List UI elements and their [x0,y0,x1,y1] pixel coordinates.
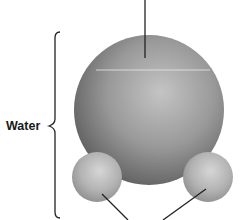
hydrogen-right-leader-line [163,189,206,220]
water-molecule-diagram [0,0,241,220]
hydrogen-left-leader-line [102,194,128,220]
hydrogen-atom-right [183,152,233,202]
hydrogen-atom-left [72,152,122,202]
curly-brace-icon [49,32,60,218]
molecule-label-water: Water [6,120,40,133]
